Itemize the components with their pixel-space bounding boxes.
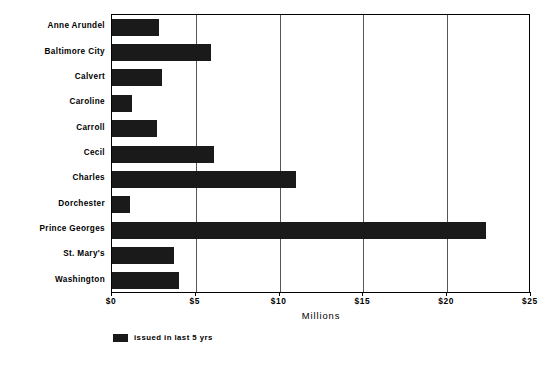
x-tick-label: $5 [190,296,201,306]
bar [112,69,162,86]
bar [112,95,132,112]
category-label: Baltimore City [0,47,105,56]
gridline [280,15,281,292]
bar [112,146,214,163]
category-label: Calvert [0,72,105,81]
bar [112,44,211,61]
bar-chart: Anne ArundelBaltimore CityCalvertCarolin… [0,0,554,365]
x-axis-title: Millions [0,310,554,321]
bar [112,120,157,137]
bar [112,247,174,264]
category-label: St. Mary's [0,249,105,258]
category-label: Prince Georges [0,224,105,233]
plot-area [111,14,530,293]
category-label: Washington [0,275,105,284]
category-label: Carroll [0,123,105,132]
x-tick-label: $10 [271,296,287,306]
category-axis-labels: Anne ArundelBaltimore CityCalvertCarolin… [0,13,105,292]
category-label: Anne Arundel [0,21,105,30]
gridline [447,15,448,292]
x-tick-label: $20 [438,296,454,306]
x-axis-title-text: Millions [214,310,340,321]
chart-legend: issued in last 5 yrs [113,333,213,342]
x-tick-label: $0 [106,296,117,306]
x-tick-label: $15 [355,296,371,306]
bar [112,222,486,239]
legend-swatch-icon [113,334,128,342]
gridline [363,15,364,292]
category-label: Dorchester [0,199,105,208]
category-label: Charles [0,173,105,182]
bar [112,272,179,289]
legend-label: issued in last 5 yrs [134,333,213,342]
category-label: Cecil [0,148,105,157]
bar [112,171,296,188]
x-tick-label: $25 [522,296,538,306]
bar [112,196,130,213]
category-label: Caroline [0,97,105,106]
bar [112,19,159,36]
